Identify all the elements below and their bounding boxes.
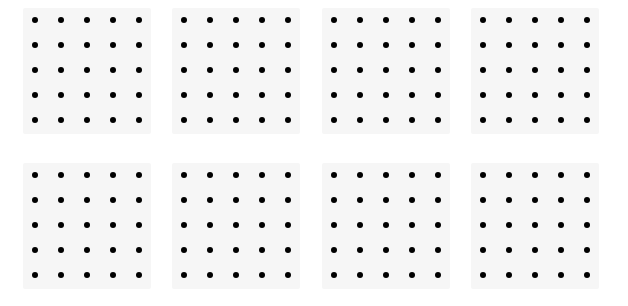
grid-dot [558,17,564,23]
grid-dot [233,42,239,48]
grid-dot [383,172,389,178]
grid-dot [532,172,538,178]
grid-dot [558,272,564,278]
grid-dot [285,17,291,23]
grid-dot [32,92,38,98]
grid-dot [207,17,213,23]
grid-dot [136,197,142,203]
grid-dot [480,222,486,228]
grid-dot [357,222,363,228]
grid-dot [285,67,291,73]
grid-dot [136,42,142,48]
grid-dot [584,67,590,73]
grid-dot [110,247,116,253]
grid-dot [110,17,116,23]
grid-dot [207,272,213,278]
grid-dot [584,222,590,228]
grid-dot [233,172,239,178]
grid-dot [32,67,38,73]
grid-dot [233,222,239,228]
grid-dot [532,117,538,123]
dot-grid-panel-2 [172,8,300,134]
grid-dot [357,67,363,73]
grid-dot [84,117,90,123]
grid-dot [259,197,265,203]
grid-dot [58,42,64,48]
grid-dot [480,17,486,23]
grid-dot [136,272,142,278]
grid-dot [207,42,213,48]
grid-dot [331,17,337,23]
grid-dot [110,117,116,123]
grid-dot [409,42,415,48]
grid-dot [435,92,441,98]
grid-dot [331,117,337,123]
grid-dot [383,92,389,98]
grid-dot [331,247,337,253]
grid-dot [331,197,337,203]
grid-dot [331,67,337,73]
grid-dot [532,222,538,228]
grid-dot [84,42,90,48]
grid-dot [506,197,512,203]
grid-dot [84,272,90,278]
grid-dot [285,172,291,178]
grid-dot [357,117,363,123]
grid-dot [409,17,415,23]
grid-dot [383,197,389,203]
grid-dot [136,172,142,178]
grid-dot [506,247,512,253]
grid-dot [181,172,187,178]
grid-dot [532,92,538,98]
grid-dot [584,42,590,48]
grid-dot [435,222,441,228]
grid-dot [181,17,187,23]
grid-dot [84,92,90,98]
grid-dot [84,247,90,253]
grid-dot [435,247,441,253]
grid-dot [435,117,441,123]
grid-dot [136,67,142,73]
grid-dot [480,117,486,123]
grid-dot [558,67,564,73]
grid-dot [409,92,415,98]
grid-dot [181,117,187,123]
grid-dot [110,42,116,48]
dot-grid-panel-1 [23,8,151,134]
grid-dot [136,247,142,253]
grid-dot [259,222,265,228]
grid-dot [506,17,512,23]
grid-dot [480,247,486,253]
grid-dot [32,272,38,278]
grid-dot [558,92,564,98]
grid-dot [84,197,90,203]
grid-dot [331,222,337,228]
grid-dot [32,117,38,123]
grid-dot [331,42,337,48]
grid-dot [357,92,363,98]
grid-dot [233,117,239,123]
grid-dot [558,117,564,123]
dot-grid-panel-5 [23,163,151,289]
grid-dot [480,197,486,203]
grid-dot [584,247,590,253]
grid-dot [506,42,512,48]
grid-dot [357,247,363,253]
dot-grid-panel-4 [471,8,599,134]
grid-dot [207,197,213,203]
grid-dot [558,42,564,48]
grid-dot [110,67,116,73]
grid-dot [233,92,239,98]
grid-dot [383,272,389,278]
grid-dot [58,67,64,73]
grid-dot [207,222,213,228]
grid-dot [58,197,64,203]
grid-dot [285,117,291,123]
grid-dot [207,172,213,178]
grid-dot [506,92,512,98]
grid-dot [58,92,64,98]
dot-grid-panel-8 [471,163,599,289]
grid-dot [435,42,441,48]
grid-dot [383,222,389,228]
grid-dot [357,17,363,23]
